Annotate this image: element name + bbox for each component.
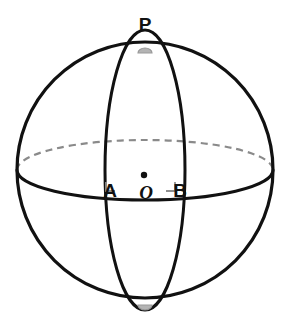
point-label-A: A (103, 180, 117, 201)
sphere-diagram-canvas: P A O B (0, 0, 290, 336)
point-label-P: P (139, 14, 152, 35)
center-point-dot (141, 172, 147, 178)
point-label-B: B (173, 180, 187, 201)
pole-marker-top-icon (138, 48, 152, 53)
point-label-O: O (139, 182, 153, 203)
pole-marker-bottom-icon (138, 305, 152, 310)
sphere-diagram-figure: P A O B (0, 0, 290, 336)
